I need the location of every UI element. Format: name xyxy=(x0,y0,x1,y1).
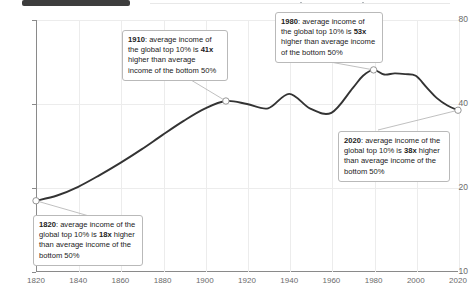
y-tick-mark xyxy=(32,104,36,105)
annotation-1980: 1980: average income of the global top 1… xyxy=(275,12,383,63)
gridline-horizontal xyxy=(37,104,459,105)
x-tick-label: 1840 xyxy=(58,276,98,285)
annotation-1820: 1820: average income of the global top 1… xyxy=(33,215,143,266)
gridline-vertical xyxy=(459,20,460,272)
y-tick-mark xyxy=(32,272,36,273)
annotation-1980-text: 1980: average income of the global top 1… xyxy=(281,17,375,57)
annotation-2020-text: 2020: average income of the global top 1… xyxy=(344,136,440,176)
gridline-horizontal xyxy=(37,188,459,189)
app-chrome-strip xyxy=(0,0,468,8)
annotation-1910-text: 1910: average income of the global top 1… xyxy=(128,35,216,75)
gridline-vertical xyxy=(248,20,249,272)
x-tick-label: 1940 xyxy=(269,276,309,285)
x-tick-label: 1880 xyxy=(143,276,183,285)
x-tick-label: 1820 xyxy=(16,276,56,285)
x-tick-label: 2020 xyxy=(438,276,473,285)
y-tick-label: 10 xyxy=(438,267,468,276)
x-tick-label: 1900 xyxy=(185,276,225,285)
x-tick-label: 1860 xyxy=(100,276,140,285)
x-tick-label: 2000 xyxy=(396,276,436,285)
y-tick-label: 40 xyxy=(438,99,468,108)
chrome-tab-pill[interactable] xyxy=(22,0,130,6)
x-tick-label: 1980 xyxy=(354,276,394,285)
chrome-divider xyxy=(150,3,450,4)
x-tick-label: 1960 xyxy=(311,276,351,285)
annotation-2020: 2020: average income of the global top 1… xyxy=(338,131,450,182)
y-tick-label: 80 xyxy=(438,15,468,24)
gridline-horizontal xyxy=(37,20,459,21)
annotation-1910: 1910: average income of the global top 1… xyxy=(122,30,228,81)
x-tick-label: 1920 xyxy=(227,276,267,285)
y-tick-mark xyxy=(32,20,36,21)
annotation-1820-text: 1820: average income of the global top 1… xyxy=(39,220,135,260)
y-tick-mark xyxy=(32,188,36,189)
y-tick-label: 20 xyxy=(438,183,468,192)
